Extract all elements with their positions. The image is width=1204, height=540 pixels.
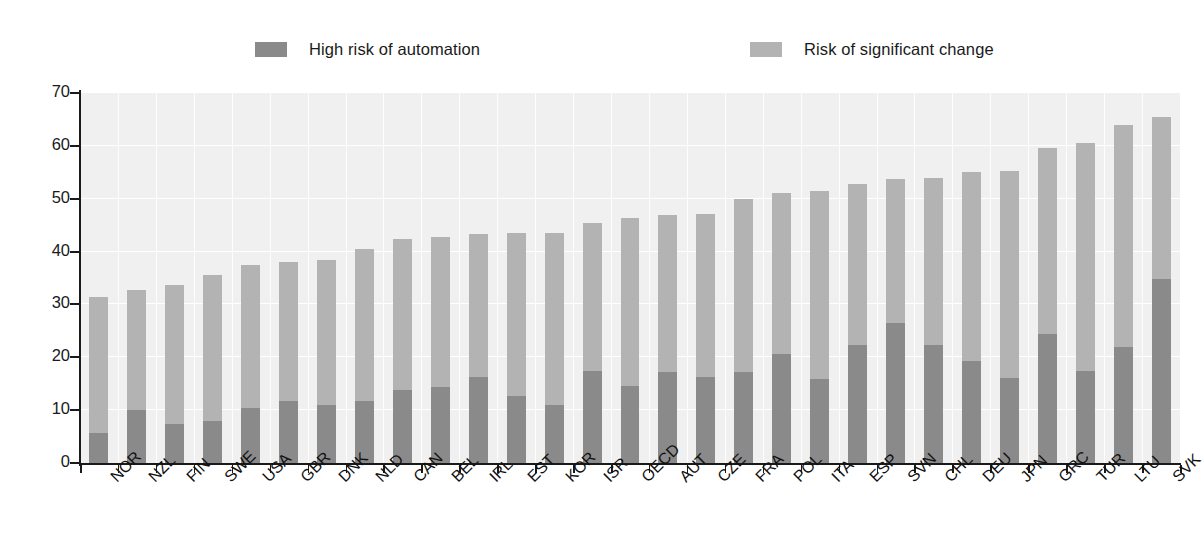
bar-segment-significant-change <box>1038 148 1057 334</box>
bar-nzl[interactable] <box>127 290 146 463</box>
y-axis-tick-label: 60 <box>30 135 70 154</box>
x-axis-label-cze: CZE <box>714 473 727 486</box>
bar-grc[interactable] <box>1038 148 1057 463</box>
x-axis-label-svk: SVK <box>1169 473 1182 486</box>
bar-can[interactable] <box>393 239 412 463</box>
legend-label-significant-change: Risk of significant change <box>804 40 994 59</box>
bar-esp[interactable] <box>848 184 867 463</box>
y-axis-tick-label: 70 <box>30 82 70 101</box>
bar-segment-high-risk <box>924 345 943 463</box>
x-axis-label-est: EST <box>524 473 537 486</box>
x-axis-label-tur: TUR <box>1093 473 1106 486</box>
bar-kor[interactable] <box>545 233 564 463</box>
bar-pol[interactable] <box>772 193 791 463</box>
chart-legend: High risk of automation Risk of signific… <box>80 36 1180 62</box>
y-axis-tick <box>70 356 80 358</box>
y-axis-tick-label: 10 <box>30 399 70 418</box>
bar-segment-significant-change <box>545 233 564 406</box>
bar-deu[interactable] <box>962 172 981 463</box>
x-axis-label-bel: BEL <box>448 473 461 486</box>
bar-fra[interactable] <box>734 199 753 463</box>
x-axis-label-nzl: NZL <box>145 473 158 486</box>
x-axis-label-jpn: JPN <box>1017 473 1030 486</box>
bar-segment-significant-change <box>127 290 146 410</box>
bar-segment-significant-change <box>962 172 981 361</box>
bar-jpn[interactable] <box>1000 171 1019 463</box>
bar-nor[interactable] <box>89 297 108 464</box>
x-axis-label-dnk: DNK <box>335 473 348 486</box>
y-axis-tick-label: 20 <box>30 346 70 365</box>
bar-segment-significant-change <box>696 214 715 378</box>
bar-segment-significant-change <box>1152 117 1171 278</box>
bar-segment-significant-change <box>317 260 336 406</box>
bar-segment-high-risk <box>469 377 488 463</box>
bar-est[interactable] <box>507 233 526 463</box>
bar-segment-high-risk <box>1114 347 1133 463</box>
x-axis-label-fin: FIN <box>183 473 196 486</box>
x-axis-label-svn: SVN <box>904 473 917 486</box>
y-axis-tick <box>70 462 80 464</box>
bar-dnk[interactable] <box>317 260 336 464</box>
x-axis-label-esp: ESP <box>866 473 879 486</box>
bar-segment-significant-change <box>507 233 526 396</box>
bar-svk[interactable] <box>1152 117 1171 463</box>
bar-segment-significant-change <box>848 184 867 344</box>
bar-segment-significant-change <box>279 262 298 400</box>
bar-segment-significant-change <box>772 193 791 354</box>
bar-chl[interactable] <box>924 178 943 463</box>
bar-fin[interactable] <box>165 285 184 463</box>
bar-segment-significant-change <box>734 199 753 371</box>
y-axis-tick <box>70 198 80 200</box>
bar-segment-high-risk <box>507 396 526 463</box>
bar-tur[interactable] <box>1076 143 1095 463</box>
bar-segment-high-risk <box>203 421 222 463</box>
bar-segment-significant-change <box>165 285 184 424</box>
bar-ita[interactable] <box>810 191 829 463</box>
bar-segment-significant-change <box>89 297 108 433</box>
bar-usa[interactable] <box>241 265 260 463</box>
bar-gbr[interactable] <box>279 262 298 463</box>
bar-segment-high-risk <box>1152 279 1171 463</box>
y-axis-tick-label: 40 <box>30 241 70 260</box>
bar-segment-significant-change <box>1114 125 1133 347</box>
y-axis-tick <box>70 303 80 305</box>
automation-risk-bar-chart: High risk of automation Risk of signific… <box>0 0 1204 540</box>
x-axis-label-can: CAN <box>410 473 423 486</box>
bar-segment-high-risk <box>734 372 753 463</box>
bar-segment-high-risk <box>621 386 640 463</box>
bar-isr[interactable] <box>583 223 602 463</box>
x-axis-label-grc: GRC <box>1055 473 1068 486</box>
y-axis-tick <box>70 145 80 147</box>
bar-cze[interactable] <box>696 214 715 463</box>
bar-nld[interactable] <box>355 249 374 463</box>
y-axis-tick <box>70 409 80 411</box>
bar-segment-significant-change <box>810 191 829 379</box>
x-axis-label-chl: CHL <box>941 473 954 486</box>
x-axis-label-ltu: LTU <box>1131 473 1144 486</box>
bar-irl[interactable] <box>469 234 488 463</box>
legend-item-high-risk: High risk of automation <box>255 36 480 62</box>
legend-swatch-significant-change <box>750 42 782 57</box>
x-axis-label-oecd: OECD <box>638 473 651 486</box>
x-axis-label-irl: IRL <box>486 473 499 486</box>
legend-label-high-risk: High risk of automation <box>309 40 480 59</box>
legend-item-significant-change: Risk of significant change <box>750 36 994 62</box>
x-axis-label-nor: NOR <box>107 473 120 486</box>
bar-aut[interactable] <box>658 215 677 463</box>
bar-ltu[interactable] <box>1114 125 1133 463</box>
bar-segment-high-risk <box>962 361 981 463</box>
bar-segment-significant-change <box>469 234 488 377</box>
bar-segment-high-risk <box>848 345 867 463</box>
bar-segment-significant-change <box>1076 143 1095 371</box>
bar-segment-high-risk <box>772 354 791 463</box>
y-axis-tick <box>70 251 80 253</box>
bar-segment-significant-change <box>1000 171 1019 378</box>
bar-series-container <box>80 93 1180 463</box>
bar-swe[interactable] <box>203 275 222 463</box>
x-axis-label-deu: DEU <box>979 473 992 486</box>
bar-bel[interactable] <box>431 237 450 463</box>
bar-svn[interactable] <box>886 179 905 463</box>
bar-segment-significant-change <box>393 239 412 389</box>
x-axis-label-ita: ITA <box>828 473 841 486</box>
bar-oecd[interactable] <box>621 218 640 463</box>
